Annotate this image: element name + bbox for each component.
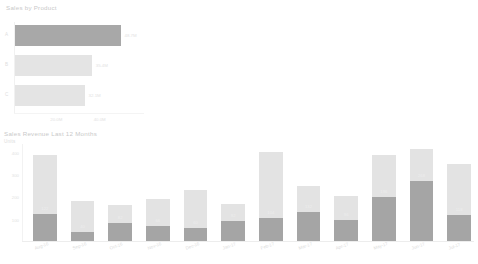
x-axis-month-label: Oct-16	[109, 241, 123, 250]
revenue-segment-lower[interactable]	[33, 214, 56, 241]
product-category-label: A	[5, 32, 8, 37]
revenue-segment-lower[interactable]	[71, 232, 94, 241]
y-axis-tick-label: 400	[6, 150, 19, 155]
x-axis-month-label: Aug-16	[34, 241, 49, 251]
stacked-bar-plot-area: 400300200100122Aug-1640Sep-1682Oct-1666N…	[22, 144, 474, 242]
revenue-segment-value: 122	[41, 206, 48, 211]
x-axis-month-label: Jul-17	[448, 242, 461, 251]
revenue-stacked-column[interactable]: 122	[33, 155, 56, 241]
sales-by-product-panel: Sales by Product A48.7MB35.4MC32.1M20.0M…	[0, 0, 478, 128]
page-title: Sales by Product	[6, 4, 57, 11]
revenue-stacked-column[interactable]: 40	[71, 201, 94, 241]
revenue-stacked-column[interactable]: 196	[372, 155, 395, 241]
revenue-stacked-column[interactable]: 104	[259, 152, 282, 241]
revenue-segment-value: 40	[80, 224, 85, 229]
x-axis-month-label: Feb-17	[260, 241, 275, 250]
y-axis-tick-label: 200	[6, 195, 19, 200]
product-bar[interactable]	[15, 55, 92, 76]
revenue-segment-lower[interactable]	[447, 215, 470, 241]
x-axis-month-label: May-17	[373, 241, 388, 251]
revenue-segment-lower[interactable]	[334, 220, 357, 241]
horizontal-bar-plot-area: A48.7MB35.4MC32.1M20.0M40.0M	[14, 22, 144, 114]
x-axis-month-label: Sep-16	[72, 241, 87, 251]
revenue-stacked-column[interactable]: 132	[297, 186, 320, 241]
revenue-segment-value: 82	[118, 215, 123, 220]
revenue-stacked-column[interactable]: 96	[334, 196, 357, 241]
y-axis-tick-label: 300	[6, 173, 19, 178]
x-axis-month-label: Apr-17	[335, 241, 349, 250]
revenue-segment-lower[interactable]	[372, 197, 395, 241]
revenue-segment-value: 104	[267, 210, 274, 215]
revenue-segment-value: 60	[193, 220, 198, 225]
y-axis-line	[22, 144, 23, 242]
revenue-stacked-column[interactable]: 118	[447, 164, 470, 241]
revenue-segment-lower[interactable]	[410, 181, 433, 241]
revenue-segment-lower[interactable]	[221, 221, 244, 241]
revenue-segment-upper[interactable]	[259, 152, 282, 217]
revenue-segment-value: 268	[418, 173, 425, 178]
x-axis-month-label: Dec-16	[185, 241, 200, 251]
revenue-stacked-column[interactable]: 66	[146, 199, 169, 241]
x-axis-month-label: Jun-17	[411, 241, 425, 250]
x-axis-tick-label: 20.0M	[50, 117, 62, 122]
x-axis-month-label: Jan-17	[222, 241, 236, 250]
y-axis-tick-label: 100	[6, 217, 19, 222]
x-axis-line	[14, 113, 144, 114]
product-bar-value: 32.1M	[89, 93, 101, 98]
revenue-segment-value: 196	[380, 189, 387, 194]
revenue-chart-subtitle: Units	[4, 139, 15, 144]
revenue-segment-lower[interactable]	[184, 228, 207, 241]
revenue-stacked-column[interactable]: 92	[221, 204, 244, 241]
revenue-segment-lower[interactable]	[259, 218, 282, 241]
product-bar[interactable]	[15, 85, 85, 106]
revenue-segment-lower[interactable]	[108, 223, 131, 241]
revenue-stacked-column[interactable]: 82	[108, 205, 131, 241]
revenue-segment-value: 92	[231, 213, 236, 218]
product-bar-value: 48.7M	[125, 33, 137, 38]
revenue-segment-value: 132	[305, 204, 312, 209]
revenue-segment-lower[interactable]	[146, 226, 169, 241]
revenue-segment-value: 66	[155, 218, 160, 223]
product-category-label: C	[5, 92, 8, 97]
revenue-segment-lower[interactable]	[297, 212, 320, 241]
product-category-label: B	[5, 62, 8, 67]
x-axis-tick-label: 40.0M	[94, 117, 106, 122]
product-bar-value: 35.4M	[96, 63, 108, 68]
sales-revenue-panel: Sales Revenue Last 12 Months Units 40030…	[0, 128, 478, 264]
x-axis-month-label: Mar-17	[298, 241, 313, 250]
revenue-stacked-column[interactable]: 60	[184, 190, 207, 241]
revenue-segment-value: 96	[344, 212, 349, 217]
revenue-segment-value: 118	[456, 207, 463, 212]
revenue-stacked-column[interactable]: 268	[410, 149, 433, 241]
product-bar[interactable]	[15, 25, 121, 46]
x-axis-line	[22, 241, 474, 242]
x-axis-month-label: Nov-16	[147, 241, 162, 251]
revenue-chart-title: Sales Revenue Last 12 Months	[4, 130, 97, 137]
